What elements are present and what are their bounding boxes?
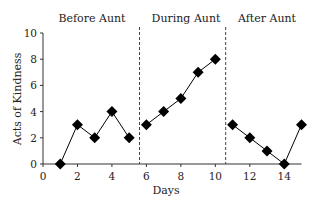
x-tick-label: 6 (143, 170, 150, 182)
phase-series-2 (227, 119, 307, 169)
x-tick-label: 4 (109, 170, 116, 182)
x-tick-label: 10 (209, 170, 222, 182)
diamond-marker-icon (72, 119, 83, 130)
x-tick-label: 12 (243, 170, 256, 182)
x-tick-label: 2 (74, 170, 81, 182)
line-chart: Before Aunt During Aunt After Aunt 02468… (0, 0, 317, 204)
x-tick-label: 0 (40, 170, 47, 182)
diamond-marker-icon (244, 132, 255, 143)
y-tick-label: 6 (30, 79, 37, 91)
y-tick-label: 4 (30, 106, 37, 118)
diamond-marker-icon (175, 93, 186, 104)
x-axis: 02468101214 (40, 164, 302, 182)
phase-label-during: During Aunt (152, 12, 221, 25)
phase-series-1 (141, 54, 221, 131)
y-tick-label: 2 (30, 132, 37, 144)
diamond-marker-icon (193, 67, 204, 78)
data-series (55, 54, 307, 170)
y-axis: 0246810 (24, 27, 43, 170)
diamond-marker-icon (106, 106, 117, 117)
x-axis-label: Days (152, 184, 180, 197)
diamond-marker-icon (296, 119, 307, 130)
diamond-marker-icon (55, 159, 66, 170)
phase-label-before: Before Aunt (58, 12, 126, 25)
diamond-marker-icon (158, 106, 169, 117)
y-tick-label: 10 (24, 27, 37, 39)
diamond-marker-icon (141, 119, 152, 130)
diamond-marker-icon (89, 132, 100, 143)
diamond-marker-icon (227, 119, 238, 130)
y-tick-label: 8 (30, 53, 37, 65)
diamond-marker-icon (279, 159, 290, 170)
y-tick-label: 0 (30, 158, 37, 170)
diamond-marker-icon (210, 54, 221, 65)
y-axis-label: Acts of Kindness (11, 52, 24, 146)
diamond-marker-icon (262, 145, 273, 156)
x-tick-label: 14 (278, 170, 292, 182)
phase-series-0 (55, 106, 135, 169)
diamond-marker-icon (124, 132, 135, 143)
x-tick-label: 8 (178, 170, 185, 182)
phase-label-after: After Aunt (237, 12, 297, 25)
